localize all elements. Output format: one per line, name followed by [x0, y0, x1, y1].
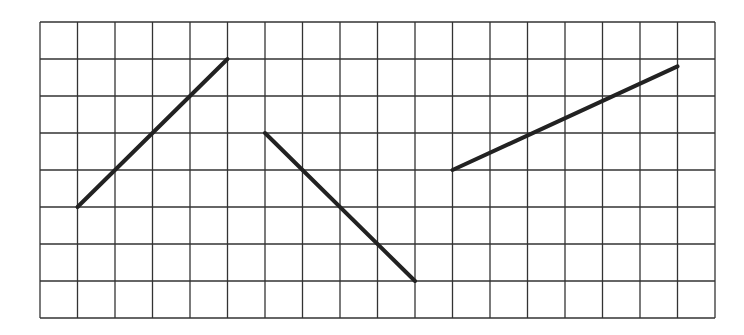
- grid-diagram: [0, 0, 744, 335]
- grid-lines: [40, 22, 715, 318]
